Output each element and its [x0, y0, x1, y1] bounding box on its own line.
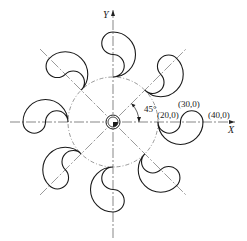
point-label-20-0: (20,0) — [157, 110, 179, 120]
petal-3 — [102, 32, 136, 77]
petal-8 — [129, 146, 185, 202]
petal-5 — [23, 100, 68, 134]
angle-label: 45° — [144, 104, 157, 114]
x-axis-label: X — [227, 124, 235, 135]
angle-arrow-start — [137, 117, 141, 122]
point-label-40-0: (40,0) — [208, 110, 230, 120]
center-symbol — [106, 115, 120, 129]
angle-arrow-end — [131, 104, 135, 108]
y-axis-label: Y — [103, 9, 110, 20]
axes-group — [10, 10, 235, 238]
petal-2 — [137, 50, 193, 106]
petal-4 — [41, 42, 97, 98]
point-label-30-0: (30,0) — [178, 99, 200, 109]
angle-annotation: 45° — [131, 104, 157, 122]
petal-6 — [33, 138, 89, 194]
y-axis-arrow — [111, 10, 115, 16]
cam-diagram: 45° (20,0) (30,0) (40,0) X Y — [0, 0, 247, 241]
petal-7 — [91, 167, 125, 212]
